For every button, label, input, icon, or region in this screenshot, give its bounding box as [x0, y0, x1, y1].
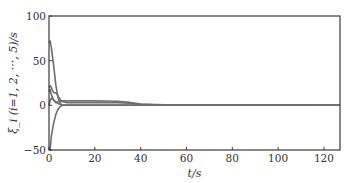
series-line-2: [49, 86, 340, 106]
y-tick-label: 100: [26, 10, 46, 22]
series-line-5: [49, 98, 340, 105]
plot-frame: [49, 16, 340, 150]
series-line-4: [49, 105, 340, 150]
x-tick-label: 80: [226, 152, 239, 164]
x-tick-label: 60: [180, 152, 193, 164]
x-tick-label: 100: [268, 152, 288, 164]
y-axis-label: ξ_i (i=1, 2, ···, 5)/s: [7, 32, 20, 134]
x-axis-label: t/s: [188, 167, 202, 180]
y-tick-label: −50: [24, 144, 46, 156]
line-chart: 020406080100120 −50050100 t/s ξ_i (i=1, …: [0, 0, 350, 183]
series-line-1: [49, 41, 340, 105]
x-tick-label: 20: [88, 152, 101, 164]
y-axis-ticks: −50050100: [24, 10, 52, 156]
x-tick-label: 120: [314, 152, 334, 164]
series-lines: [49, 41, 340, 150]
x-tick-label: 0: [46, 152, 53, 164]
x-tick-label: 40: [134, 152, 147, 164]
y-tick-label: 0: [39, 99, 46, 111]
y-tick-label: 50: [33, 55, 46, 67]
